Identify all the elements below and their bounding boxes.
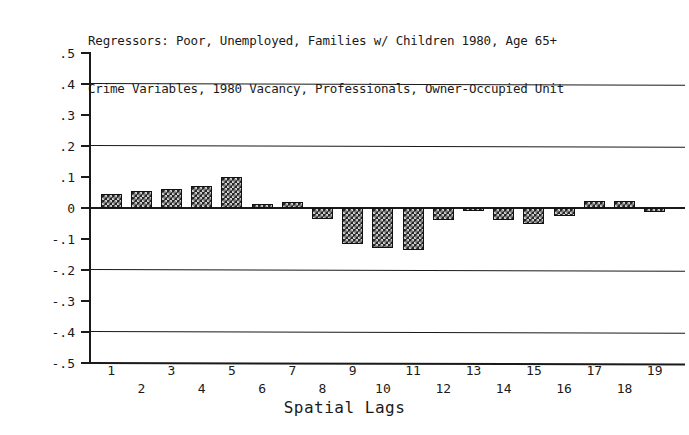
- x-tick-label-13: 13: [466, 364, 482, 377]
- y-tick-p4: [81, 83, 90, 85]
- bar-lag-9: [342, 208, 363, 244]
- gridline: [90, 269, 685, 272]
- y-tick-label: .5: [29, 47, 75, 60]
- y-tick-p1: [81, 176, 90, 178]
- y-tick-label: .1: [29, 171, 75, 184]
- plot-area: [90, 53, 685, 363]
- chart-title-line-1: Regressors: Poor, Unemployed, Families w…: [88, 33, 688, 49]
- y-tick-0: [81, 207, 90, 209]
- x-tick-label-16: 16: [556, 382, 572, 395]
- bar-lag-10: [372, 208, 393, 248]
- x-tick-label-11: 11: [405, 364, 421, 377]
- bar-lag-1: [101, 194, 122, 208]
- bar-lag-8: [312, 208, 333, 219]
- y-tick-negp2: [81, 269, 90, 271]
- chart-figure: Regressors: Poor, Unemployed, Families w…: [0, 0, 689, 435]
- x-tick-label-8: 8: [319, 382, 327, 395]
- y-tick-p2: [81, 145, 90, 147]
- gridline: [90, 331, 685, 334]
- y-tick-label: -.2: [29, 264, 75, 277]
- bar-lag-17: [584, 201, 605, 208]
- bar-lag-14: [493, 208, 514, 220]
- bar-lag-7: [282, 202, 303, 208]
- bar-lag-5: [221, 177, 242, 208]
- x-tick-label-2: 2: [137, 382, 145, 395]
- y-tick-negp1: [81, 238, 90, 240]
- bar-lag-11: [403, 208, 424, 250]
- x-tick-label-19: 19: [647, 364, 663, 377]
- bar-lag-16: [554, 208, 575, 216]
- bar-lag-13: [463, 208, 484, 211]
- bar-lag-18: [614, 201, 635, 208]
- x-tick-label-1: 1: [107, 364, 115, 377]
- y-tick-label: .2: [29, 140, 75, 153]
- gridline: [90, 145, 685, 148]
- y-tick-label: 0: [29, 202, 75, 215]
- x-tick-label-14: 14: [496, 382, 512, 395]
- y-tick-label: -.1: [29, 233, 75, 246]
- y-tick-p5: [81, 52, 90, 54]
- x-tick-label-12: 12: [435, 382, 451, 395]
- y-tick-label: -.3: [29, 295, 75, 308]
- x-tick-label-6: 6: [258, 382, 266, 395]
- x-tick-label-10: 10: [375, 382, 391, 395]
- bar-lag-15: [523, 208, 544, 224]
- gridline: [90, 83, 685, 86]
- x-tick-label-15: 15: [526, 364, 542, 377]
- y-tick-negp4: [81, 331, 90, 333]
- x-axis-title: Spatial Lags: [0, 398, 689, 417]
- bar-lag-2: [131, 191, 152, 208]
- x-tick-label-5: 5: [228, 364, 236, 377]
- bar-lag-19: [644, 208, 665, 212]
- x-tick-label-3: 3: [168, 364, 176, 377]
- y-tick-negp5: [81, 362, 90, 364]
- bar-lag-4: [191, 186, 212, 208]
- y-tick-label: .3: [29, 109, 75, 122]
- y-tick-p3: [81, 114, 90, 116]
- x-tick-label-18: 18: [617, 382, 633, 395]
- y-tick-negp3: [81, 300, 90, 302]
- y-tick-label: -.4: [29, 326, 75, 339]
- x-tick-label-9: 9: [349, 364, 357, 377]
- y-tick-label: -.5: [29, 357, 75, 370]
- x-tick-label-7: 7: [288, 364, 296, 377]
- bar-lag-3: [161, 189, 182, 208]
- x-tick-label-17: 17: [586, 364, 602, 377]
- x-tick-label-4: 4: [198, 382, 206, 395]
- bar-lag-12: [433, 208, 454, 220]
- bar-lag-6: [252, 204, 273, 208]
- y-tick-label: .4: [29, 78, 75, 91]
